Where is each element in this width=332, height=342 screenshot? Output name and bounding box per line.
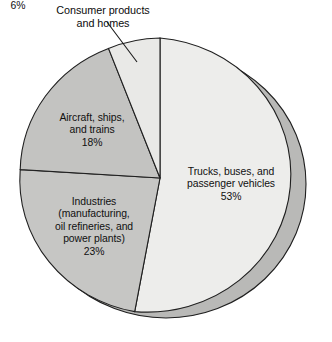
pie-chart-graphic bbox=[0, 0, 332, 342]
pie-face bbox=[20, 38, 291, 312]
pie-chart-figure: Consumer products and homes 6% Aircraft,… bbox=[0, 0, 332, 342]
pie-slice-industries[interactable] bbox=[20, 170, 160, 312]
slice-label-consumer: Consumer products and homes bbox=[25, 4, 181, 31]
